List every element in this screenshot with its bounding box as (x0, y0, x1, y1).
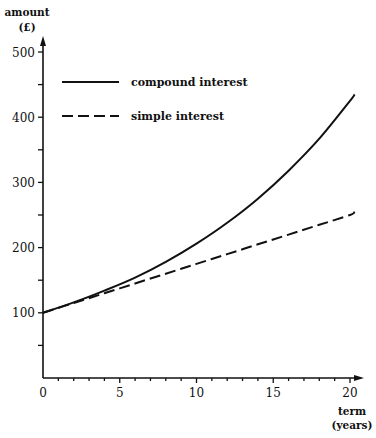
x-tick-label: 20 (342, 386, 357, 400)
y-tick-label: 300 (12, 176, 35, 190)
x-axis-arrow-icon (354, 375, 364, 381)
y-tick-label: 200 (12, 241, 35, 255)
x-tick-label: 10 (189, 386, 204, 400)
x-tick-label: 15 (266, 386, 281, 400)
chart: 10020030040050005101520amount(£)term(yea… (0, 0, 376, 438)
x-axis-unit: (years) (332, 419, 373, 431)
y-axis-unit: (£) (18, 21, 35, 33)
simple-interest-line (43, 212, 355, 313)
y-axis-title: amount (4, 6, 49, 18)
y-axis-arrow-icon (40, 36, 46, 46)
x-tick-label: 5 (116, 386, 124, 400)
legend-label: compound interest (131, 76, 248, 89)
y-tick-label: 400 (12, 111, 35, 125)
y-tick-label: 500 (12, 46, 35, 60)
x-axis-title: term (338, 405, 366, 417)
legend-label: simple interest (131, 110, 225, 123)
x-tick-label: 0 (39, 386, 47, 400)
y-tick-label: 100 (12, 306, 35, 320)
compound-interest-line (43, 94, 355, 312)
